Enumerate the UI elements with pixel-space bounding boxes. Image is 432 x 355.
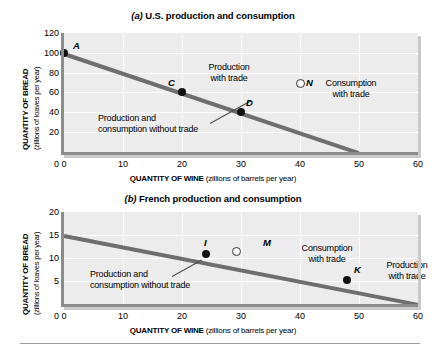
panel-b-xtick-30: 30 xyxy=(229,312,253,321)
panel-a-point-N xyxy=(296,79,305,88)
panel-a-xtick-0: 0 xyxy=(52,160,76,169)
panel-b-xtick-0: 0 xyxy=(52,312,76,321)
panel-b-y-axis-sublabel: (zillions of loaves per year) xyxy=(25,232,43,315)
panel-a-ytick-60: 60 xyxy=(33,88,59,97)
panel-a-xtick-10: 10 xyxy=(111,160,135,169)
panel-b-y-axis-line xyxy=(61,212,64,307)
panel-a-xtick-20: 20 xyxy=(170,160,194,169)
panel-b-point-M xyxy=(232,247,241,256)
panel-a-xtick-30: 30 xyxy=(229,160,253,169)
panel-b-x-axis-shadow xyxy=(64,307,421,310)
panel-a-point-C xyxy=(178,88,186,96)
chart-panel-us: (a) U.S. production and consumption QUAN… xyxy=(0,0,426,185)
panel-a-ytick-40: 40 xyxy=(33,108,59,117)
panel-a-y-axis-line xyxy=(61,33,64,155)
panel-b-note-production-with-trade: Productionwith trade xyxy=(370,260,432,282)
panel-a-point-D-label: D xyxy=(246,98,253,107)
panel-a-gridline-x30 xyxy=(241,33,242,152)
panel-a-xtick-60: 60 xyxy=(406,160,430,169)
panel-a-xtick-40: 40 xyxy=(288,160,312,169)
panel-b-ytick-15: 15 xyxy=(33,231,59,240)
panel-b-title: (b) French production and consumption xyxy=(0,193,426,204)
figure-bottom-rule xyxy=(20,343,420,344)
panel-a-title: (a) U.S. production and consumption xyxy=(0,10,426,21)
panel-a-prefix: (a) xyxy=(131,10,142,21)
panel-a-x-axis-label-bold: QUANTITY OF WINE xyxy=(130,174,204,183)
panel-b-plot-area: Consumptionwith trade Productionwith tra… xyxy=(64,212,418,304)
panel-b-xtick-10: 10 xyxy=(111,312,135,321)
panel-a-ytick-20: 20 xyxy=(33,128,59,137)
panel-b-xtick-50: 50 xyxy=(347,312,371,321)
panel-a-ytick-120: 120 xyxy=(33,29,59,38)
panel-b-prefix: (b) xyxy=(125,193,137,204)
panel-a-point-C-label: C xyxy=(168,78,175,87)
panel-b-note-consumption-with-trade: Consumptionwith trade xyxy=(286,243,368,265)
panel-b-x-axis-label-bold: QUANTITY OF WINE xyxy=(130,326,204,335)
panel-a-x-axis-label: QUANTITY OF WINE (zillions of barrels pe… xyxy=(0,174,426,183)
panel-a-note-production-with-trade: Productionwith trade xyxy=(194,62,264,84)
panel-b-xtick-40: 40 xyxy=(288,312,312,321)
panel-b-point-M-label: M xyxy=(263,238,271,247)
panel-b-point-I-label: I xyxy=(204,238,207,247)
panel-b-y-axis-label-line2: (zillions of loaves per year) xyxy=(32,232,41,315)
panel-b-x-axis-label: QUANTITY OF WINE (zillions of barrels pe… xyxy=(0,326,426,335)
panel-a-note-consumption-with-trade: Consumptionwith trade xyxy=(311,78,391,100)
panel-b-point-K xyxy=(343,276,351,284)
panel-a-plot-area: Productionwith trade Consumptionwith tra… xyxy=(64,33,418,152)
panel-b-plot-right-shadow xyxy=(418,215,421,307)
panel-a-point-N-label: N xyxy=(306,78,313,87)
panel-a-point-D xyxy=(237,108,245,116)
panel-b-x-axis-label-rest: (zillions of barrels per year) xyxy=(206,326,296,335)
panel-b-point-K-label: K xyxy=(354,265,361,274)
panel-a-note-without-trade: Production andconsumption without trade xyxy=(98,113,238,135)
panel-a-x-axis-shadow xyxy=(64,155,421,158)
panel-a-xtick-50: 50 xyxy=(347,160,371,169)
panel-a-ytick-100: 100 xyxy=(33,49,59,58)
panel-b-xtick-60: 60 xyxy=(406,312,430,321)
panel-b-title-text: French production and consumption xyxy=(139,193,301,204)
panel-b-point-I xyxy=(202,250,210,258)
panel-a-x-axis-label-rest: (zillions of barrels per year) xyxy=(206,174,296,183)
panel-a-title-text: U.S. production and consumption xyxy=(145,10,294,21)
panel-a-plot-right-shadow xyxy=(418,36,421,155)
panel-b-gridline-x30 xyxy=(241,212,242,304)
panel-b-ytick-10: 10 xyxy=(33,254,59,263)
panel-b-ytick-20: 20 xyxy=(33,208,59,217)
panel-b-ytick-5: 5 xyxy=(33,277,59,286)
panel-b-xtick-20: 20 xyxy=(170,312,194,321)
chart-panel-french: (b) French production and consumption QU… xyxy=(0,185,426,343)
panel-a-ytick-80: 80 xyxy=(33,69,59,78)
panel-a-point-A-label: A xyxy=(73,41,80,50)
panel-b-note-without-trade: Production andconsumption without trade xyxy=(90,269,240,291)
